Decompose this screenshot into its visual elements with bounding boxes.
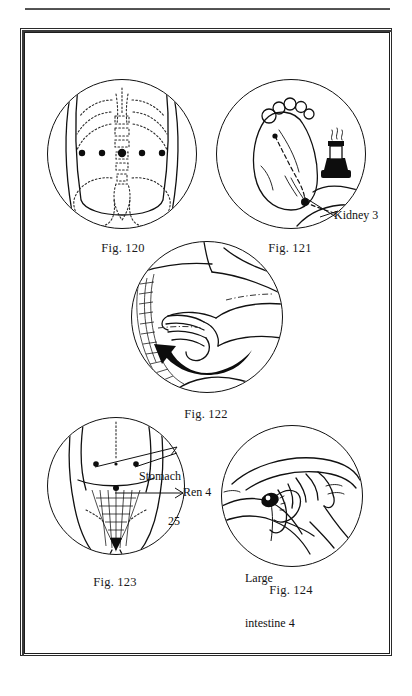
figure-122-illustration — [132, 242, 282, 392]
label-kidney-3: Kidney 3 — [334, 209, 378, 222]
figure-123: Stomach 25 Ren 4 Fig. 123 — [43, 417, 215, 617]
label-ren-4: Ren 4 — [183, 486, 211, 499]
large-intestine-4-leader-line — [259, 501, 299, 543]
figure-124-caption: Fig. 124 — [221, 583, 361, 598]
page-canvas: Fig. 120 — [0, 0, 412, 696]
label-stomach-25-line-1: Stomach — [139, 469, 209, 484]
label-stomach-25-line-2: 25 — [139, 514, 209, 529]
label-large-intestine-4: Large intestine 4 — [245, 541, 295, 661]
figure-120-illustration — [48, 80, 196, 228]
figure-122: Fig. 122 — [131, 241, 291, 439]
figure-122-disc — [131, 241, 283, 393]
label-large-intestine-4-line-2: intestine 4 — [245, 616, 295, 631]
figure-124: Large intestine 4 Fig. 124 — [221, 425, 381, 621]
plate-frame: Fig. 120 — [20, 28, 392, 656]
figure-120-disc — [47, 79, 197, 229]
moxa-burner-icon — [321, 128, 351, 178]
figure-123-caption: Fig. 123 — [43, 575, 187, 590]
top-rule-divider — [25, 8, 390, 10]
label-stomach-25: Stomach 25 — [139, 439, 209, 559]
